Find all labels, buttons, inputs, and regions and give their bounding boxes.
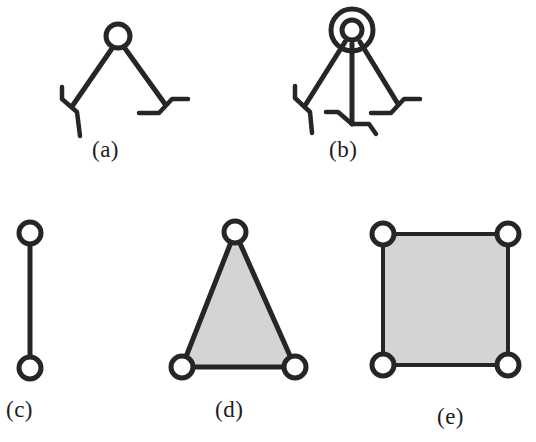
panel-b-linkage [295,9,420,134]
panel-a-linkage [62,24,188,136]
panel-d-label: (d) [215,397,243,423]
panel-b-left-leg [306,42,345,104]
panel-e-node-bottom-left [372,354,394,376]
panel-b-left-foot-icon [295,86,312,133]
figure-diagram-svg [0,0,536,442]
panel-c-segment [19,222,41,379]
panel-b-label: (b) [329,137,357,163]
panel-d-node-apex [224,221,246,243]
panel-c-node-top [19,222,41,244]
panel-d-node-bottom-left [171,356,193,378]
panel-a-label: (a) [92,137,119,163]
panel-e-label: (e) [437,404,464,430]
panel-a-left-foot-icon [62,87,80,136]
panel-a-hub-joint-icon [106,24,130,48]
panel-b-hub-joint-icon [342,20,362,40]
panel-e-node-top-right [497,223,519,245]
panel-e-square [372,223,519,376]
panel-c-label: (c) [6,397,33,423]
panel-e-node-top-left [372,223,394,245]
panel-d-node-bottom-right [284,356,306,378]
panel-c-node-bottom [19,357,41,379]
panel-a-left-leg [73,47,113,105]
panel-e-filled-face [383,234,508,365]
panel-e-node-bottom-right [497,354,519,376]
panel-d-triangle [171,221,306,378]
panel-a-right-leg [124,47,165,104]
panel-d-filled-face [182,232,295,367]
figure-panel: (a) (b) (c) (d) (e) [0,0,536,442]
panel-b-right-leg [360,42,398,104]
